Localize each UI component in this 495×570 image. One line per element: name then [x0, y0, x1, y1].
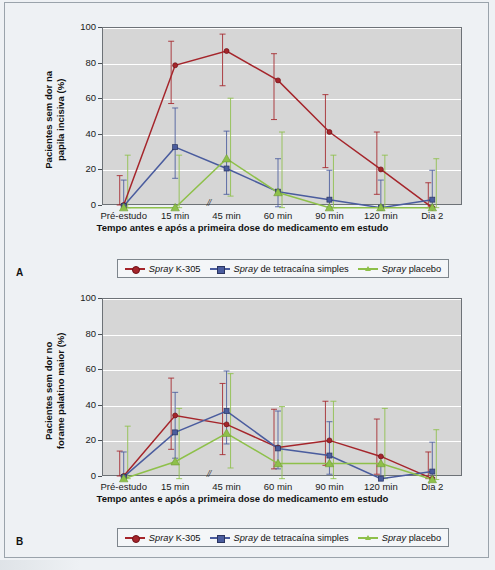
- chart-svg: [0, 288, 485, 518]
- page-edge-artifact: [0, 560, 80, 570]
- legend-item-spray-tetracaina[interactable]: Spray de tetracaína simples: [210, 264, 349, 274]
- data-point-marker: [327, 453, 332, 458]
- legend-item-spray-k305[interactable]: Spray K-305: [125, 533, 201, 543]
- data-point-marker: [430, 469, 435, 474]
- data-point-marker: [327, 438, 332, 443]
- data-point-marker: [224, 166, 229, 171]
- legend-marker-square: [217, 535, 225, 543]
- legend-marker: [125, 264, 145, 273]
- legend-label: Spray K-305: [149, 264, 201, 274]
- x-axis-label: Tempo antes e após a primeira dose do me…: [0, 222, 485, 233]
- data-point-marker: [173, 145, 178, 150]
- chart-panel-b: 020406080100Pré-estudo15 min45 min60 min…: [0, 288, 485, 556]
- legend-marker-triangle: [365, 535, 371, 540]
- legend-label: Spray de tetracaína simples: [234, 533, 349, 543]
- data-point-marker: [222, 429, 231, 436]
- legend-item-spray-tetracaina[interactable]: Spray de tetracaína simples: [210, 533, 349, 543]
- legend-label: Spray placebo: [382, 264, 441, 274]
- data-point-marker: [276, 78, 281, 83]
- y-axis-label: Pacientes sem dor noforame palatino maio…: [43, 321, 67, 461]
- data-point-marker: [173, 413, 178, 418]
- data-point-marker: [327, 130, 332, 135]
- chart-legend: Spray K-305Spray de tetracaína simplesSp…: [117, 259, 449, 278]
- legend-marker: [358, 264, 378, 273]
- y-axis-label: Pacientes sem dor napapila incisiva (%): [43, 50, 67, 190]
- legend-label: Spray placebo: [382, 533, 441, 543]
- legend-label: Spray de tetracaína simples: [234, 264, 349, 274]
- data-point-marker: [173, 63, 178, 68]
- x-axis-label: Tempo antes e após a primeira dose do me…: [0, 493, 485, 504]
- panel-letter: A: [16, 267, 23, 278]
- data-point-marker: [430, 197, 435, 202]
- legend-marker: [210, 264, 230, 273]
- data-point-marker: [224, 422, 229, 427]
- legend-marker: [358, 533, 378, 542]
- legend-label: Spray K-305: [149, 533, 201, 543]
- legend-marker-circle: [132, 535, 140, 543]
- legend-item-spray-placebo[interactable]: Spray placebo: [358, 533, 441, 543]
- legend-marker-triangle: [365, 266, 371, 271]
- panel-letter: B: [16, 536, 23, 547]
- legend-marker: [125, 533, 145, 542]
- legend-marker-circle: [132, 266, 140, 274]
- legend-marker-square: [217, 266, 225, 274]
- data-point-marker: [224, 409, 229, 414]
- legend-item-spray-placebo[interactable]: Spray placebo: [358, 264, 441, 274]
- chart-legend: Spray K-305Spray de tetracaína simplesSp…: [117, 528, 449, 547]
- data-point-marker: [222, 154, 231, 161]
- legend-marker: [210, 533, 230, 542]
- data-point-marker: [276, 446, 281, 451]
- data-point-marker: [224, 49, 229, 54]
- data-point-marker: [378, 454, 383, 459]
- data-point-marker: [378, 167, 383, 172]
- legend-item-spray-k305[interactable]: Spray K-305: [125, 264, 201, 274]
- chart-svg: [0, 0, 485, 230]
- data-point-marker: [378, 476, 383, 481]
- chart-panel-a: 020406080100Pré-estudo15 min45 min60 min…: [0, 0, 485, 288]
- data-point-marker: [327, 197, 332, 202]
- data-point-marker: [173, 430, 178, 435]
